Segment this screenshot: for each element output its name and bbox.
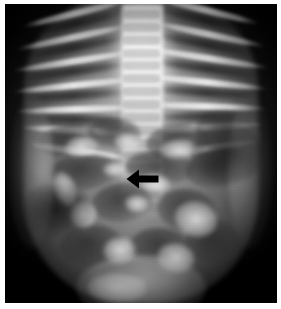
- radiograph-image: [5, 4, 277, 303]
- radiograph-film: [5, 4, 277, 303]
- film-vignette: [5, 4, 277, 303]
- pointer-arrow-icon: [126, 169, 159, 189]
- xray-figure: [0, 0, 281, 309]
